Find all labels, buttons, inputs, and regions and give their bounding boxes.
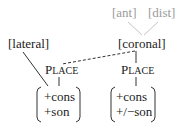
edge-dist-coronal [144, 22, 158, 35]
matrix-left-row: +cons [44, 89, 75, 104]
matrix-right-open-bracket [111, 87, 115, 122]
place-node-left: PLACE [45, 63, 78, 77]
feature-lateral: [lateral] [8, 37, 49, 50]
place-left-rest: LACE [52, 65, 78, 76]
feature-dist: [dist] [148, 6, 175, 19]
feature-matrix-right: +cons +/−son [116, 89, 152, 119]
feature-matrix-left: +cons +son [44, 89, 75, 119]
edge-ant-coronal [128, 22, 142, 35]
matrix-right-row: +/−son [116, 104, 152, 119]
matrix-left-open-bracket [37, 87, 41, 122]
place-node-right: PLACE [121, 63, 154, 77]
matrix-right-row: +cons [116, 89, 152, 104]
matrix-left-close-bracket [76, 87, 80, 122]
place-right-rest: LACE [128, 65, 154, 76]
matrix-left-row: +son [44, 104, 75, 119]
feature-ant: [ant] [112, 6, 137, 19]
feature-coronal: [coronal] [118, 37, 166, 50]
